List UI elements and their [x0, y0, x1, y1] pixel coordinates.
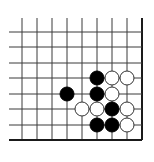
white-stone	[120, 71, 134, 85]
white-stone	[90, 102, 104, 116]
white-stone	[120, 118, 134, 132]
go-board	[0, 0, 154, 162]
white-stone	[105, 87, 119, 101]
white-stone	[120, 102, 134, 116]
white-stone	[75, 102, 89, 116]
black-stone	[90, 71, 104, 85]
black-stone	[90, 87, 104, 101]
black-stone	[105, 118, 119, 132]
black-stone	[90, 118, 104, 132]
stones	[60, 71, 134, 132]
black-stone	[60, 87, 74, 101]
white-stone	[105, 71, 119, 85]
black-stone	[105, 102, 119, 116]
